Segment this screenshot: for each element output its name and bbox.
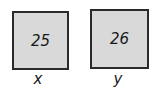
label-y: y xyxy=(108,70,128,88)
box-y: 26 xyxy=(90,9,149,69)
box-y-value: 26 xyxy=(110,30,129,48)
box-x: 25 xyxy=(12,11,69,70)
label-x: x xyxy=(28,70,48,88)
box-x-value: 25 xyxy=(31,32,50,50)
